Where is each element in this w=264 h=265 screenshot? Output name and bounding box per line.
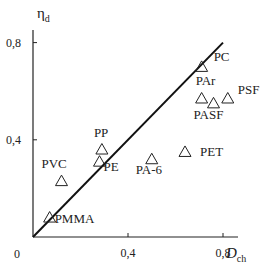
y-tick-label: 0,8: [6, 36, 21, 50]
x-tick-label: 0,4: [121, 246, 136, 260]
scatter-chart: 0,40,80,40,8 PCPArPASFPSFPA-6PETPPPEPVCP…: [0, 0, 264, 265]
triangle-marker: [196, 92, 208, 103]
point-label: PMMA: [55, 211, 95, 226]
y-tick-label: 0,4: [6, 133, 21, 147]
data-points: PCPArPASFPSFPA-6PETPPPEPVCPMMA: [42, 49, 260, 226]
point-label: PSF: [238, 82, 260, 97]
y-axis-title: ηd: [37, 5, 50, 24]
point-label: PP: [94, 125, 108, 140]
x-axis-title: Dch: [225, 245, 246, 264]
triangle-marker: [179, 146, 191, 157]
point-label: PAr: [196, 73, 216, 88]
triangle-marker: [208, 97, 220, 108]
triangle-marker: [56, 175, 68, 186]
origin-label: 0: [14, 247, 20, 261]
x-axis-title-main: D: [225, 245, 237, 261]
point-label: PC: [214, 49, 230, 64]
triangle-marker: [222, 92, 234, 103]
point-label: PASF: [194, 107, 224, 122]
triangle-marker: [96, 144, 108, 155]
point-label: PA-6: [136, 162, 163, 177]
point-label: PET: [200, 144, 223, 159]
point-label: PVC: [42, 156, 67, 171]
point-label: PE: [104, 159, 119, 174]
x-axis-title-sub: ch: [237, 253, 246, 264]
reference-line: [33, 43, 223, 237]
y-axis-title-main: η: [37, 5, 45, 21]
y-axis-title-sub: d: [45, 13, 50, 24]
